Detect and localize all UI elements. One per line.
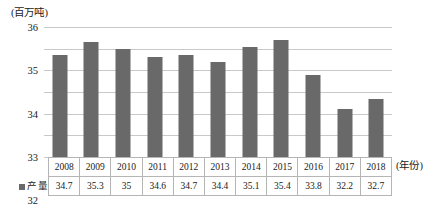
- legend-swatch-icon: [19, 184, 25, 190]
- bar-slot: [297, 27, 329, 157]
- bar: [210, 62, 225, 157]
- x-axis-unit-label: (年份): [396, 160, 423, 172]
- bar-slot: [76, 27, 108, 157]
- bar-slot: [265, 27, 297, 157]
- table-cell-year: 2011: [142, 158, 173, 177]
- bar-slot: [107, 27, 139, 157]
- table-cell-year: 2012: [173, 158, 204, 177]
- bar: [369, 99, 384, 158]
- bar-slot: [171, 27, 203, 157]
- data-table: 2008200920102011201220132014201520162017…: [18, 157, 392, 196]
- table-cell-year: 2016: [298, 158, 329, 177]
- table-cell-value: 35.4: [267, 177, 298, 196]
- table-cell-value: 35: [111, 177, 142, 196]
- table-cell-year: 2018: [360, 158, 391, 177]
- table-cell-year: 2008: [49, 158, 80, 177]
- bar: [179, 55, 194, 157]
- bar: [305, 75, 320, 157]
- y-axis-tick-label: 32: [28, 195, 39, 205]
- bar: [242, 47, 257, 158]
- bar: [116, 49, 131, 157]
- table-row-years: 2008200920102011201220132014201520162017…: [18, 158, 392, 177]
- bar: [337, 109, 352, 157]
- table-cell-year: 2009: [80, 158, 111, 177]
- plot-area: 30313233343536: [44, 27, 392, 157]
- y-axis-tick-label: 36: [28, 22, 39, 33]
- table-cell-value: 32.2: [329, 177, 360, 196]
- y-axis-unit-label: (百万吨): [11, 7, 48, 19]
- bar-slot: [329, 27, 361, 157]
- table-cell-value: 34.7: [49, 177, 80, 196]
- bar: [147, 57, 162, 157]
- table-cell-value: 32.7: [360, 177, 391, 196]
- table-cell-value: 33.8: [298, 177, 329, 196]
- bar-slot: [44, 27, 76, 157]
- bars-group: [44, 27, 392, 157]
- bar-slot: [360, 27, 392, 157]
- table-cell-year: 2010: [111, 158, 142, 177]
- legend-label: 产量: [27, 181, 49, 192]
- table-cell-year: 2015: [267, 158, 298, 177]
- table-cell-value: 35.3: [80, 177, 111, 196]
- y-axis-tick-label: 35: [28, 65, 39, 76]
- legend-item-output: 产量: [18, 177, 49, 196]
- bar: [52, 55, 67, 157]
- bar-slot: [202, 27, 234, 157]
- chart-container: (百万吨) 30313233343536 (年份) 20082009201020…: [0, 0, 438, 205]
- table-cell-value: 34.7: [173, 177, 204, 196]
- table-cell-value: 35.1: [236, 177, 267, 196]
- bar: [274, 40, 289, 157]
- table-cell-value: 34.4: [204, 177, 235, 196]
- table-cell-year: 2014: [236, 158, 267, 177]
- bar: [84, 42, 99, 157]
- table-cell-value: 34.6: [142, 177, 173, 196]
- bar-slot: [139, 27, 171, 157]
- y-axis-tick-label: 34: [28, 108, 39, 119]
- table-cell-year: 2013: [204, 158, 235, 177]
- table-corner-cell: [18, 158, 49, 177]
- table-row-values: 产量 34.735.33534.634.734.435.135.433.832.…: [18, 177, 392, 196]
- bar-slot: [234, 27, 266, 157]
- table-cell-year: 2017: [329, 158, 360, 177]
